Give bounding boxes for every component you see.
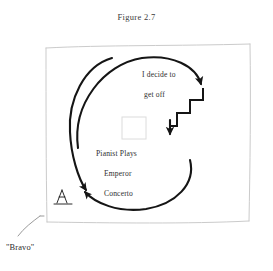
audience-figure-icon [54, 190, 72, 204]
label-pianist-plays: Pianist Plays [96, 149, 137, 158]
label-bravo: "Bravo" [6, 243, 34, 252]
figure-root: Figure 2.7 [0, 0, 273, 271]
label-emperor: Emperor [104, 169, 132, 178]
figure-illustration [0, 0, 273, 271]
label-concerto: Concerto [104, 189, 133, 198]
inner-square-icon [122, 117, 146, 139]
label-get-off: get off [144, 90, 165, 99]
upper-curve-arrow-icon [77, 57, 201, 148]
staircase-arrow-icon [170, 88, 203, 126]
lower-curve-arrow-icon [85, 160, 191, 210]
label-i-decide-to: I decide to [142, 70, 176, 79]
bravo-leader-line-icon [18, 216, 44, 236]
